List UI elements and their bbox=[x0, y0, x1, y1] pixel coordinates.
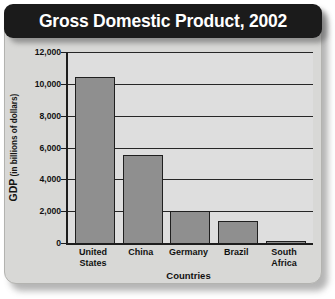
bar[interactable] bbox=[123, 155, 163, 243]
y-axis-tick-labels: 02,0004,0006,0008,00010,00012,000 bbox=[20, 44, 61, 250]
y-axis-tick-mark bbox=[61, 179, 68, 180]
bar-series bbox=[68, 52, 313, 243]
chart-figure: Gross Domestic Product, 2002 GDP (in bil… bbox=[0, 0, 335, 299]
bar-slot bbox=[71, 52, 119, 243]
y-axis-tick-label: 8,000 bbox=[20, 111, 61, 121]
bar[interactable] bbox=[170, 211, 210, 243]
bar-slot bbox=[119, 52, 167, 243]
chart-title-banner: Gross Domestic Product, 2002 bbox=[4, 4, 322, 38]
y-axis-tick-mark bbox=[61, 84, 68, 85]
y-axis-tick-mark bbox=[61, 116, 68, 117]
y-axis-label-main: GDP bbox=[7, 179, 19, 202]
x-axis-label: Countries bbox=[66, 270, 311, 281]
y-axis-tick-label: 10,000 bbox=[20, 79, 61, 89]
bar-slot bbox=[262, 52, 310, 243]
y-axis-tick-label: 12,000 bbox=[20, 47, 61, 57]
y-axis-tick-mark bbox=[61, 243, 68, 244]
plot-area bbox=[66, 52, 313, 245]
y-axis-label-sub: (in billions of dollars) bbox=[10, 94, 19, 179]
bar-slot bbox=[167, 52, 215, 243]
bar-slot bbox=[214, 52, 262, 243]
y-axis-tick-label: 6,000 bbox=[20, 143, 61, 153]
bar[interactable] bbox=[75, 77, 115, 243]
y-axis-tick-mark bbox=[61, 148, 68, 149]
y-axis-tick-label: 2,000 bbox=[20, 206, 61, 216]
y-axis-tick-mark bbox=[61, 52, 68, 53]
y-axis-tick-label: 0 bbox=[20, 238, 61, 248]
y-axis-tick-mark bbox=[61, 211, 68, 212]
chart-title: Gross Domestic Product, 2002 bbox=[39, 11, 287, 32]
y-axis-tick-label: 4,000 bbox=[20, 174, 61, 184]
bar[interactable] bbox=[218, 221, 258, 243]
bar[interactable] bbox=[266, 241, 306, 243]
